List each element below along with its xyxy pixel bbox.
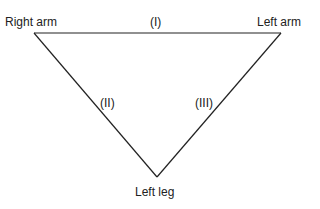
lead-3-line	[157, 33, 281, 177]
label-lead-2: (II)	[100, 97, 115, 109]
label-left-leg: Left leg	[135, 186, 174, 198]
label-lead-3: (III)	[195, 97, 213, 109]
lead-2-line	[34, 33, 157, 177]
label-lead-1: (I)	[150, 16, 161, 28]
label-left-arm: Left arm	[257, 16, 301, 28]
triangle-diagram	[0, 0, 320, 209]
label-right-arm: Right arm	[5, 16, 57, 28]
